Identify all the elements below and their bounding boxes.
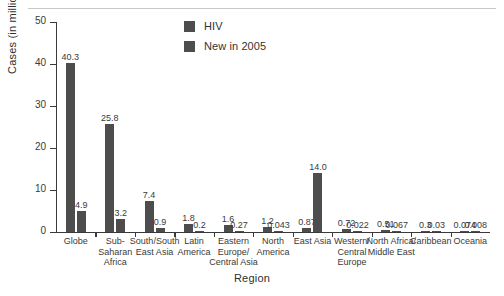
bar-new-in-2005: 0.008 — [471, 231, 480, 232]
bar-value-label: 0.022 — [346, 220, 369, 230]
bar-new-in-2005: 4.9 — [77, 211, 86, 232]
bar-group: 0.720.022 — [332, 22, 371, 232]
x-axis-line — [56, 232, 490, 233]
bar-new-in-2005: 0.03 — [432, 231, 441, 232]
bar-group: 40.34.9 — [56, 22, 95, 232]
y-axis-tick: 0 — [50, 232, 56, 233]
plot-area: 0102030405040.34.925.83.27.40.91.80.21.6… — [56, 22, 490, 232]
bar-value-label: 0.03 — [428, 220, 446, 230]
bar-value-label: 0.27 — [230, 220, 248, 230]
bar-value-label: 0.043 — [267, 220, 290, 230]
bar-new-in-2005: 0.067 — [392, 231, 401, 232]
y-axis-title: Cases (in millions) — [6, 0, 18, 74]
bar-group: 0.8714.0 — [293, 22, 332, 232]
bar-hiv: 0.3 — [421, 231, 430, 232]
bar-hiv: 7.4 — [145, 201, 154, 232]
bar-value-label: 14.0 — [309, 162, 327, 172]
bar-group: 0.0740.008 — [451, 22, 490, 232]
bar-hiv: 0.87 — [302, 228, 311, 232]
y-axis-tick-label: 20 — [35, 141, 46, 152]
bar-hiv: 1.8 — [184, 224, 193, 232]
y-axis-tick-label: 40 — [35, 57, 46, 68]
top-divider-rule — [28, 8, 496, 9]
bar-value-label: 7.4 — [143, 190, 156, 200]
y-axis-tick-label: 10 — [35, 183, 46, 194]
bar-new-in-2005: 0.2 — [195, 231, 204, 232]
bar-group: 0.30.03 — [411, 22, 450, 232]
bar-new-in-2005: 3.2 — [116, 219, 125, 232]
bar-group: 1.20.043 — [253, 22, 292, 232]
bar-group: 1.60.27 — [214, 22, 253, 232]
bar-group: 0.510.067 — [372, 22, 411, 232]
bar-value-label: 0.008 — [464, 220, 487, 230]
bar-chart-figure: HIV New in 2005 Cases (in millions) 0102… — [0, 0, 504, 296]
bar-value-label: 0.9 — [154, 217, 167, 227]
bar-hiv: 0.074 — [460, 231, 469, 232]
bar-group: 1.80.2 — [174, 22, 213, 232]
bar-value-label: 4.9 — [75, 200, 88, 210]
bar-value-label: 40.3 — [61, 52, 79, 62]
bar-value-label: 25.8 — [101, 113, 119, 123]
x-axis-title: Region — [0, 272, 504, 284]
x-axis-category-label: Oceania — [445, 236, 496, 247]
y-axis-tick-label: 30 — [35, 99, 46, 110]
y-axis-tick-label: 50 — [35, 15, 46, 26]
bar-new-in-2005: 0.27 — [235, 231, 244, 232]
bar-new-in-2005: 0.043 — [274, 231, 283, 232]
bar-hiv: 25.8 — [105, 124, 114, 232]
bar-group: 7.40.9 — [135, 22, 174, 232]
y-axis-tick-label: 0 — [40, 225, 46, 236]
bar-value-label: 0.2 — [193, 220, 206, 230]
bar-hiv: 0.51 — [381, 230, 390, 232]
bar-hiv: 40.3 — [66, 63, 75, 232]
bar-new-in-2005: 0.022 — [353, 231, 362, 232]
bar-new-in-2005: 0.9 — [156, 228, 165, 232]
bar-group: 25.83.2 — [95, 22, 134, 232]
bar-value-label: 3.2 — [114, 208, 127, 218]
bar-value-label: 0.067 — [386, 220, 409, 230]
bar-new-in-2005: 14.0 — [313, 173, 322, 232]
